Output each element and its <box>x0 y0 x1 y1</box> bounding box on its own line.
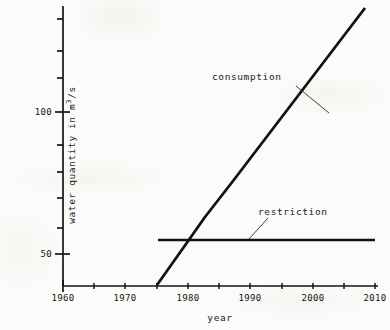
x-axis-title: year <box>207 312 232 323</box>
y-tick-label-100: 100 <box>28 107 52 117</box>
series-label-restriction: restriction <box>258 206 328 217</box>
restriction-leader-line <box>249 218 268 239</box>
x-tick-label-1990: 1990 <box>239 293 262 303</box>
chart-plot-area <box>0 0 390 330</box>
chart-page: 100 50 1960 1970 1980 1990 2000 2010 yea… <box>0 0 390 330</box>
y-axis-title-tail: /s <box>66 86 77 99</box>
x-tick-label-2010: 2010 <box>364 293 387 303</box>
series-line-consumption <box>157 8 365 285</box>
y-axis-title-main: water quantity in m <box>66 104 77 224</box>
y-axis-title: water quantity in m3/s <box>66 86 77 224</box>
series-label-consumption: consumption <box>212 71 282 82</box>
y-axis-title-exponent: 3 <box>65 99 73 104</box>
x-tick-label-1970: 1970 <box>114 293 137 303</box>
x-tick-label-2000: 2000 <box>302 293 325 303</box>
x-tick-label-1960: 1960 <box>52 293 75 303</box>
y-tick-label-50: 50 <box>28 249 52 259</box>
consumption-leader-line <box>296 86 329 113</box>
x-tick-label-1980: 1980 <box>177 293 200 303</box>
